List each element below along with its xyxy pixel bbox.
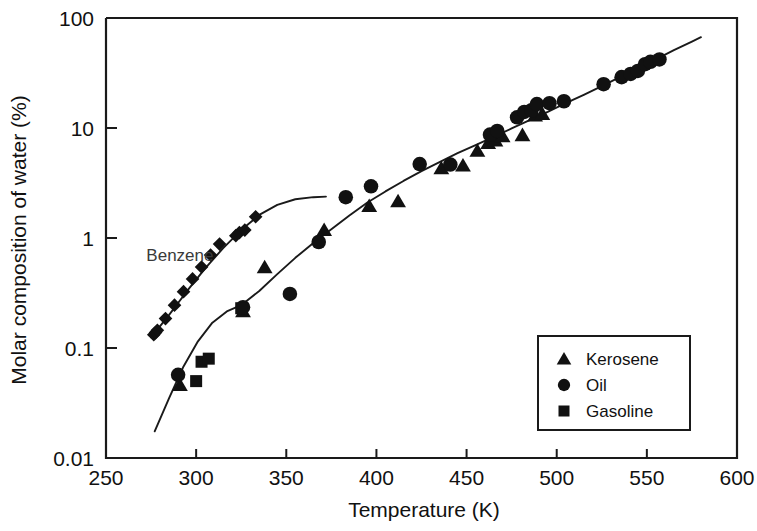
legend-marker-circle: [558, 379, 570, 391]
x-tick-label: 450: [449, 466, 484, 489]
data-point-circle: [412, 157, 427, 172]
legend-label: Oil: [586, 376, 607, 395]
x-tick-label: 550: [629, 466, 664, 489]
x-tick-label: 350: [269, 466, 304, 489]
data-point-circle: [283, 287, 298, 302]
chart-container: 250300350400450500550600 0.010.1110100 B…: [0, 0, 757, 531]
y-tick-label: 10: [71, 117, 94, 140]
chart-legend: KeroseneOilGasoline: [538, 336, 690, 430]
x-axis-title: Temperature (K): [348, 498, 500, 521]
x-tick-label: 400: [359, 466, 394, 489]
data-point-square: [235, 302, 247, 314]
legend-marker-square: [559, 406, 570, 417]
data-point-square: [190, 375, 202, 387]
y-tick-label: 0.1: [65, 337, 94, 360]
data-point-circle: [557, 94, 572, 109]
y-axis-title: Molar composition of water (%): [7, 95, 30, 384]
chart-background: [0, 0, 757, 531]
x-tick-label: 500: [539, 466, 574, 489]
legend-label: Gasoline: [586, 402, 653, 421]
data-point-circle: [311, 235, 326, 250]
data-point-circle: [339, 190, 354, 205]
data-point-circle: [542, 96, 557, 111]
data-point-circle: [171, 368, 186, 383]
annotation-benzene: Benzene: [146, 246, 213, 265]
plot-annotations: Benzene: [146, 246, 213, 265]
y-tick-label: 0.01: [53, 447, 94, 470]
data-point-circle: [596, 77, 611, 92]
x-tick-label: 300: [179, 466, 214, 489]
legend-label: Kerosene: [586, 350, 659, 369]
y-tick-label: 1: [82, 227, 94, 250]
data-point-circle: [652, 52, 667, 67]
x-tick-label: 600: [719, 466, 754, 489]
data-point-square: [203, 353, 215, 365]
y-tick-label: 100: [59, 7, 94, 30]
data-point-circle: [530, 97, 545, 112]
data-point-circle: [443, 157, 458, 172]
water-solubility-scatter-chart: 250300350400450500550600 0.010.1110100 B…: [0, 0, 757, 531]
data-point-circle: [490, 124, 505, 139]
data-point-circle: [364, 179, 379, 194]
